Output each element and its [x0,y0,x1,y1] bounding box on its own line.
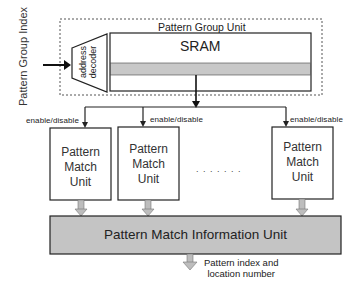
address-decoder-label: address decoder [78,36,98,88]
pmu-1-output-arrow-icon [75,200,87,216]
bus-branch-2-arrow-icon [140,121,146,127]
pmu-2-output-arrow-icon [142,200,154,216]
pattern-match-unit-1-label: Pattern Match Unit [50,145,111,190]
enable-disable-label-1: enable/disable [26,116,79,125]
input-arrow-head-icon [64,60,71,70]
enable-disable-label-3: enable/disable [290,115,343,124]
more-units-ellipsis: . . . . . . . [196,164,242,174]
pattern-match-unit-3-label: Pattern Match Unit [272,140,333,185]
bus-branch-3-arrow-icon [283,121,289,127]
sram-label: SRAM [180,38,220,54]
sram-gray-band [111,63,311,75]
output-arrow-icon [183,254,197,270]
pattern-group-index-label: Pattern Group Index [17,32,29,106]
bus-branch-1-arrow-icon [82,122,88,128]
pattern-match-unit-2-label: Pattern Match Unit [118,142,179,187]
pattern-group-unit-title: Pattern Group Unit [158,21,246,33]
pmu-3-output-arrow-icon [296,199,308,216]
output-label: Pattern index and location number [204,257,278,279]
pattern-match-information-unit-label: Pattern Match Information Unit [50,227,341,242]
enable-disable-label-2: enable/disable [150,115,203,124]
